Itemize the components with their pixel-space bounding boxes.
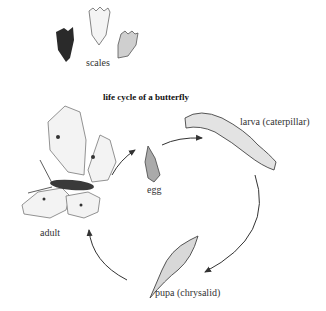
diagram-title: life cycle of a butterfly [103, 92, 189, 102]
arrow-pupa-to-adult [89, 230, 127, 280]
scale-white-icon [89, 7, 110, 45]
adult-butterfly-icon [22, 106, 116, 218]
egg-label: egg [147, 184, 161, 195]
diagram-canvas [0, 0, 326, 311]
pupa-label: pupa (chrysalid) [155, 287, 220, 298]
egg-icon [145, 146, 160, 182]
scale-grey-icon [118, 31, 138, 58]
larva-label: larva (caterpillar) [240, 116, 310, 127]
scale-dark-icon [56, 27, 74, 62]
arrow-egg-to-larva [162, 138, 202, 145]
arrow-larva-to-pupa [205, 175, 259, 272]
adult-label: adult [40, 227, 60, 238]
scales-label: scales [86, 57, 110, 68]
